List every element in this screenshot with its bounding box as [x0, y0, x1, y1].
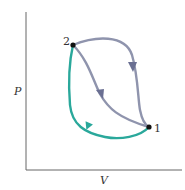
point-2 — [70, 42, 75, 47]
y-axis-label: P — [13, 85, 22, 98]
pv-diagram: P V 2 1 — [0, 0, 185, 190]
upper-process-path — [73, 39, 149, 127]
x-axis-label: V — [100, 174, 109, 187]
arrow-down-right-icon — [96, 89, 104, 99]
point-2-label: 2 — [63, 35, 70, 48]
point-1-label: 1 — [154, 122, 161, 135]
point-1 — [146, 124, 151, 129]
